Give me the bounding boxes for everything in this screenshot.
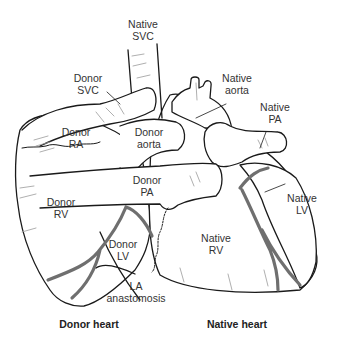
label-donor-ra: Donor RA <box>62 126 91 150</box>
caption-donor-heart: Donor heart <box>59 318 119 330</box>
label-donor-svc: Donor SVC <box>74 72 103 96</box>
label-donor-lv: Donor LV <box>109 238 138 262</box>
caption-native-heart: Native heart <box>207 318 267 330</box>
label-native-aorta: Native aorta <box>222 72 252 96</box>
label-donor-rv: Donor RV <box>47 196 76 220</box>
label-donor-pa: Donor PA <box>133 174 162 198</box>
label-native-lv: Native LV <box>287 192 317 216</box>
heart-illustration <box>0 0 342 347</box>
heart-transplant-diagram: Native SVC Donor SVC Native aorta Native… <box>0 0 342 347</box>
label-native-rv: Native RV <box>201 232 231 256</box>
label-native-svc: Native SVC <box>128 18 158 42</box>
label-native-pa: Native PA <box>260 101 290 125</box>
label-donor-aorta: Donor aorta <box>135 126 164 150</box>
label-la-anastomosis: LA anastomosis <box>107 280 166 304</box>
